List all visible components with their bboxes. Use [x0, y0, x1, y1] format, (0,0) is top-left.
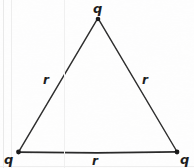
charge-label-bottom-left: q: [4, 153, 13, 166]
side-length-label-base: r: [92, 155, 98, 167]
side-length-label-left: r: [43, 74, 49, 86]
geometry-diagram-canvas: q q q r r r: [0, 0, 194, 168]
scan-streak: [11, 0, 12, 168]
scan-grain-overlay: [0, 0, 194, 168]
triangle-figure: [0, 0, 194, 168]
scan-streak: [64, 0, 65, 168]
charge-label-apex: q: [93, 2, 102, 15]
side-length-label-right: r: [142, 74, 148, 86]
charge-label-bottom-right: q: [180, 153, 189, 166]
scan-streak: [3, 0, 4, 168]
